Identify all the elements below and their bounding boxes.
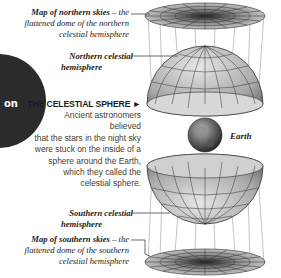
northern-hemisphere-dome (147, 46, 263, 116)
earth-label: Earth (230, 131, 252, 141)
south-map-label: Map of southern skies – the flattened do… (0, 234, 129, 267)
north-hemisphere-label: Northern celestial hemisphere (61, 51, 133, 73)
north-map-disk (145, 3, 265, 29)
north-map-label: Map of northern skies – the flattened do… (0, 7, 129, 40)
southern-hemisphere-bowl (147, 154, 263, 224)
right-arrow-icon: ► (133, 99, 141, 109)
earth-globe (188, 118, 222, 152)
south-hemisphere-label: Southern celestial hemisphere (61, 208, 133, 230)
caption-body: Ancient astronomers believed that the st… (32, 110, 141, 190)
caption-title: THE CELESTIAL SPHERE ► (27, 99, 141, 109)
south-map-disk (145, 249, 265, 275)
